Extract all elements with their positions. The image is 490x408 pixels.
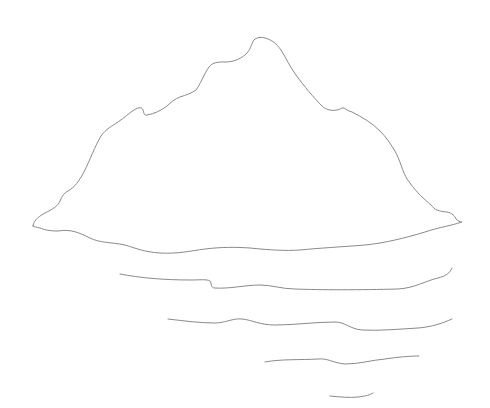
island-sketch (0, 0, 490, 408)
background (0, 0, 490, 408)
